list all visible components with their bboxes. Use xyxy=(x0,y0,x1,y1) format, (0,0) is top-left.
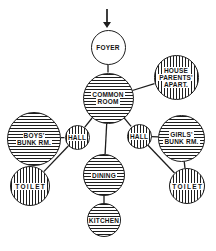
bubble-label-common-room: COMMONROOM xyxy=(91,91,125,105)
bubble-girls-bunk-rm: GIRLS'BUNK RM. xyxy=(158,115,205,162)
bubble-foyer: FOYER xyxy=(91,30,126,65)
bubble-label-house-parents-apart: HOUSEPARENTS'APART. xyxy=(158,67,194,88)
bubble-label-hall-right: HALL xyxy=(129,133,149,140)
nodes-layer: FOYERCOMMONROOMHOUSEPARENTS'APART.BOYS'B… xyxy=(0,0,216,251)
bubble-kitchen: KITCHEN xyxy=(87,203,121,237)
bubble-dining: DINING xyxy=(83,154,125,196)
bubble-common-room: COMMONROOM xyxy=(83,73,134,124)
bubble-label-dining: DINING xyxy=(91,172,117,179)
bubble-boys-bunk-rm: BOYS'BUNK RM. xyxy=(7,112,61,166)
bubble-hall-right: HALL xyxy=(127,124,152,149)
bubble-label-toilet-left: TOILET xyxy=(13,183,47,190)
bubble-label-kitchen: KITCHEN xyxy=(88,217,120,224)
bubble-hall-left: HALL xyxy=(65,125,90,150)
bubble-toilet-right: TOILET xyxy=(169,168,205,204)
bubble-label-foyer: FOYER xyxy=(95,44,120,51)
bubble-house-parents-apart: HOUSEPARENTS'APART. xyxy=(154,55,199,100)
bubble-diagram: FOYERCOMMONROOMHOUSEPARENTS'APART.BOYS'B… xyxy=(0,0,216,251)
bubble-label-hall-left: HALL xyxy=(67,134,87,141)
bubble-label-girls-bunk-rm: GIRLS'BUNK RM. xyxy=(163,131,199,145)
bubble-toilet-left: TOILET xyxy=(10,166,50,206)
bubble-label-toilet-right: TOILET xyxy=(170,183,204,190)
bubble-label-boys-bunk-rm: BOYS'BUNK RM. xyxy=(16,132,52,146)
